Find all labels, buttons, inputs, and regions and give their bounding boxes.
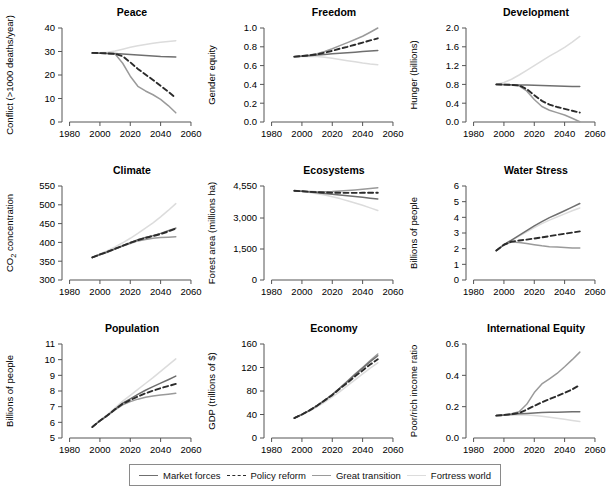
x-tick-label: 2000 xyxy=(493,286,514,297)
y-tick-label: 160 xyxy=(241,338,257,349)
y-tick-label: 0 xyxy=(454,274,459,285)
y-tick-label: 5 xyxy=(454,196,459,207)
y-tick-label: 10 xyxy=(44,93,55,104)
series-line-policy-reform xyxy=(496,84,579,112)
y-axis-label: Poor/rich income ratio xyxy=(408,345,419,437)
series-line-policy-reform xyxy=(496,385,579,416)
panel-title: Freedom xyxy=(312,6,356,18)
y-tick-label: 11 xyxy=(45,338,55,349)
x-tick-label: 2000 xyxy=(291,286,312,297)
series-line-fortress-world xyxy=(496,415,579,422)
panel-title: Economy xyxy=(310,322,357,334)
x-tick-label: 2000 xyxy=(89,444,110,455)
y-tick-label: 0.4 xyxy=(446,98,459,109)
y-tick-label: 0.4 xyxy=(446,370,459,381)
x-tick-label: 2020 xyxy=(524,444,545,455)
x-tick-label: 2000 xyxy=(493,444,514,455)
legend-swatch-fortress-world xyxy=(407,475,426,476)
x-tick-label: 1980 xyxy=(261,286,282,297)
x-tick-label: 2060 xyxy=(382,128,403,139)
panel-title: Ecosystems xyxy=(303,164,364,176)
x-tick-label: 2040 xyxy=(352,128,373,139)
x-tick-label: 2040 xyxy=(150,286,171,297)
series-line-great-transition xyxy=(496,242,579,250)
x-tick-label: 2040 xyxy=(554,286,575,297)
y-tick-label: 9 xyxy=(50,370,55,381)
legend-label: Market forces xyxy=(163,470,221,481)
legend-label: Fortress world xyxy=(431,470,491,481)
x-tick-label: 1980 xyxy=(59,128,80,139)
y-tick-label: 1 xyxy=(454,259,459,270)
y-tick-label: 20 xyxy=(44,69,55,80)
y-tick-label: 6 xyxy=(454,180,459,191)
chart-panel-international_equity: International Equity0.00.20.40.619802000… xyxy=(404,318,606,476)
x-tick-label: 2060 xyxy=(584,444,605,455)
x-tick-label: 2060 xyxy=(180,286,201,297)
y-tick-label: 0.8 xyxy=(244,41,257,52)
y-tick-label: 2 xyxy=(454,243,459,254)
y-tick-label: 400 xyxy=(39,237,55,248)
x-tick-label: 2020 xyxy=(120,444,141,455)
y-axis-label: GDP (trillions of $) xyxy=(206,352,217,429)
scenario-indicators-figure: Peace01020304019802000202020402060Confli… xyxy=(0,0,606,496)
legend-swatch-market-forces xyxy=(139,475,158,476)
y-tick-label: 10 xyxy=(44,354,55,365)
legend-item-market-forces: Market forces xyxy=(139,470,221,481)
x-tick-label: 2040 xyxy=(352,286,373,297)
x-tick-label: 2020 xyxy=(322,444,343,455)
panel-title: Water Stress xyxy=(504,164,568,176)
y-tick-label: 4 xyxy=(454,212,459,223)
y-axis-label: Billions of people xyxy=(408,197,419,269)
legend-item-great-transition: Great transition xyxy=(312,470,401,481)
x-tick-label: 1980 xyxy=(261,444,282,455)
chart-panel-population: Population56789101119802000202020402060B… xyxy=(0,318,202,476)
y-tick-label: 6 xyxy=(50,417,55,428)
y-tick-label: 500 xyxy=(39,199,55,210)
y-tick-label: 7 xyxy=(50,401,55,412)
series-line-fortress-world xyxy=(496,208,579,251)
y-tick-label: 0.6 xyxy=(446,338,459,349)
y-tick-label: 0 xyxy=(50,116,55,127)
y-tick-label: 0 xyxy=(252,432,257,443)
x-tick-label: 2020 xyxy=(524,128,545,139)
chart-panel-peace: Peace01020304019802000202020402060Confli… xyxy=(0,2,202,160)
y-tick-label: 2.0 xyxy=(446,22,459,33)
x-tick-label: 1980 xyxy=(463,286,484,297)
y-tick-label: 350 xyxy=(39,256,55,267)
chart-panel-freedom: Freedom0.00.20.40.60.81.0198020002020204… xyxy=(202,2,404,160)
y-tick-label: 30 xyxy=(44,46,55,57)
series-line-policy-reform xyxy=(92,53,175,98)
y-tick-label: 40 xyxy=(246,409,257,420)
x-tick-label: 2020 xyxy=(120,128,141,139)
legend-label: Great transition xyxy=(336,470,401,481)
x-tick-label: 2040 xyxy=(150,444,171,455)
legend-item-fortress-world: Fortress world xyxy=(407,470,491,481)
series-line-great-transition xyxy=(496,352,579,415)
series-line-fortress-world xyxy=(294,191,377,211)
x-tick-label: 2000 xyxy=(291,444,312,455)
chart-panel-ecosystems: Ecosystems01,5003,0004,55019802000202020… xyxy=(202,160,404,318)
series-line-great-transition xyxy=(92,53,175,113)
panel-title: Peace xyxy=(117,6,148,18)
x-tick-label: 2060 xyxy=(180,444,201,455)
x-tick-label: 2060 xyxy=(180,128,201,139)
series-line-market-forces xyxy=(294,356,377,418)
y-tick-label: 0.4 xyxy=(244,79,257,90)
y-axis-label: Billions of people xyxy=(4,355,15,427)
y-axis-label: CO2 concentration xyxy=(4,194,18,272)
legend-item-policy-reform: Policy reform xyxy=(227,470,306,481)
y-axis-label: Forest area (millions ha) xyxy=(206,182,217,284)
panel-title: Climate xyxy=(113,164,151,176)
y-tick-label: 8 xyxy=(50,385,55,396)
chart-panel-water_stress: Water Stress012345619802000202020402060B… xyxy=(404,160,606,318)
x-tick-label: 1980 xyxy=(59,444,80,455)
y-tick-label: 0 xyxy=(252,274,257,285)
y-tick-label: 3,000 xyxy=(233,212,257,223)
y-tick-label: 40 xyxy=(44,22,55,33)
series-line-policy-reform xyxy=(294,359,377,418)
x-tick-label: 2020 xyxy=(120,286,141,297)
y-tick-label: 0.2 xyxy=(446,401,459,412)
chart-legend: Market forcesPolicy reformGreat transiti… xyxy=(129,464,501,486)
y-tick-label: 3 xyxy=(454,227,459,238)
x-tick-label: 2060 xyxy=(584,128,605,139)
